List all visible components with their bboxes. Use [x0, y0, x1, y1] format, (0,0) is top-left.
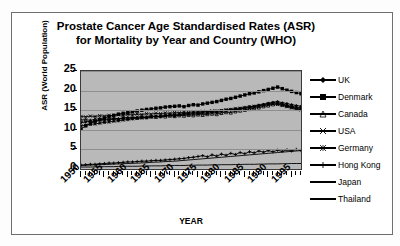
y-tick-label: 10 [46, 121, 76, 133]
chart-title-line-1: Prostate Cancer Age Standardised Rates (… [36, 19, 336, 33]
legend-marker-icon [310, 159, 336, 171]
y-tick-mark [73, 109, 77, 110]
legend-item-hong-kong[interactable]: Hong Kong [310, 156, 400, 173]
series-canvas [81, 71, 301, 169]
legend-label: Hong Kong [336, 160, 381, 170]
legend-marker-icon [310, 176, 336, 188]
legend-label: USA [336, 126, 355, 136]
legend-marker-icon [310, 91, 336, 103]
y-tick-label: 25 [46, 62, 76, 74]
legend-label: Canada [336, 109, 368, 119]
gridline [81, 130, 301, 131]
x-axis-label: YEAR [80, 216, 302, 226]
legend-marker-icon [310, 74, 336, 86]
legend-item-thailand[interactable]: Thailand [310, 190, 400, 207]
y-tick-mark [73, 70, 77, 71]
legend-marker-icon [310, 142, 336, 154]
y-tick-mark [73, 148, 77, 149]
y-tick-label: 20 [46, 82, 76, 94]
cross-x-icon [319, 127, 327, 135]
legend-label: Denmark [336, 92, 372, 102]
square-icon [319, 93, 327, 101]
y-tick-mark [73, 129, 77, 130]
legend-label: Thailand [336, 194, 371, 204]
legend-label: UK [336, 75, 350, 85]
asterisk-icon [319, 144, 327, 152]
legend-item-japan[interactable]: Japan [310, 173, 400, 190]
gridline [81, 110, 301, 111]
y-tick-label: 15 [46, 101, 76, 113]
legend-item-uk[interactable]: UK [310, 71, 400, 88]
legend-label: Japan [336, 177, 361, 187]
plot-area [80, 70, 302, 170]
legend-item-usa[interactable]: USA [310, 122, 400, 139]
legend-marker-icon [310, 125, 336, 137]
y-tick-label: 5 [46, 140, 76, 152]
chart-title: Prostate Cancer Age Standardised Rates (… [36, 19, 336, 47]
chart-frame: Prostate Cancer Age Standardised Rates (… [11, 12, 393, 235]
triangle-icon [319, 110, 327, 118]
legend-line [310, 181, 336, 183]
legend-item-canada[interactable]: Canada [310, 105, 400, 122]
legend-label: Germany [336, 143, 373, 153]
chart-title-line-2: for Mortality by Year and Country (WHO) [36, 33, 336, 47]
gridline [81, 71, 301, 72]
legend-marker-icon [310, 108, 336, 120]
legend-line [310, 198, 336, 200]
diamond-icon [319, 76, 327, 84]
legend-item-germany[interactable]: Germany [310, 139, 400, 156]
y-tick-mark [73, 90, 77, 91]
legend-item-denmark[interactable]: Denmark [310, 88, 400, 105]
gridline [81, 91, 301, 92]
plus-icon [319, 161, 327, 169]
legend-marker-icon [310, 193, 336, 205]
chart-legend: UKDenmarkCanadaUSAGermanyHong KongJapanT… [310, 71, 400, 207]
gridline [81, 149, 301, 150]
